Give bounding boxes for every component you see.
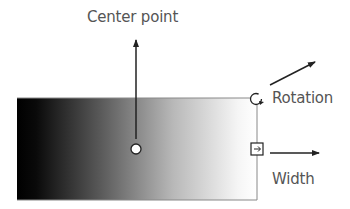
width-label: Width: [272, 170, 315, 188]
rotation-label: Rotation: [272, 89, 333, 107]
rotation-handle[interactable]: [251, 94, 265, 106]
center-point-label: Center point: [87, 8, 178, 26]
center-point-handle[interactable]: [131, 144, 141, 154]
rotation-arrow: [270, 62, 315, 85]
width-handle[interactable]: [251, 143, 263, 155]
